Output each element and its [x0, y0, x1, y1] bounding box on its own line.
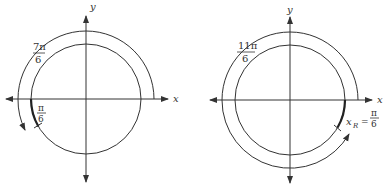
- reference-numerator: π: [371, 108, 377, 118]
- angle-numerator: 11π: [238, 40, 258, 51]
- reference-angle-figure: y x 7π 6 π 6 y x 11π 6 x R = π 6: [0, 0, 385, 191]
- reference-denominator: 6: [38, 114, 44, 124]
- reference-subscript: R: [352, 122, 359, 130]
- reference-numerator: π: [38, 103, 44, 113]
- x-axis-label: x: [377, 94, 383, 105]
- angle-denominator: 6: [242, 53, 248, 64]
- right-diagram: y x 11π 6 x R = π 6: [210, 4, 383, 183]
- reference-prefix: x: [346, 116, 352, 127]
- y-axis-label: y: [286, 4, 293, 15]
- reference-denominator: 6: [371, 119, 377, 129]
- reference-arc: [338, 100, 345, 128]
- angle-denominator: 6: [35, 54, 41, 65]
- y-axis-label: y: [89, 1, 96, 12]
- x-axis-label: x: [173, 93, 179, 104]
- equals-sign: =: [361, 117, 369, 127]
- angle-numerator: 7π: [33, 41, 46, 52]
- left-diagram: y x 7π 6 π 6: [6, 1, 179, 182]
